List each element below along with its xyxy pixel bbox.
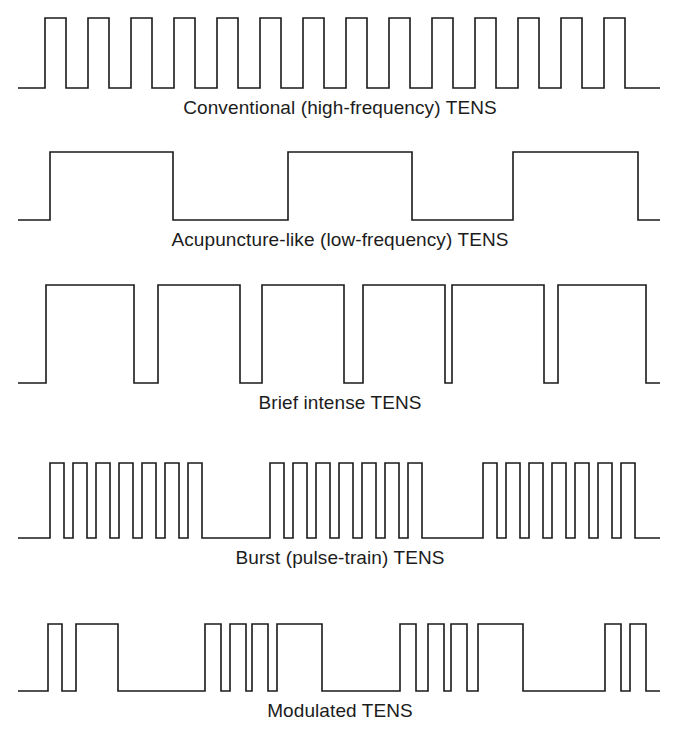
waveform-plot-burst <box>0 428 680 558</box>
waveform-caption-conventional: Conventional (high-frequency) TENS <box>0 97 680 119</box>
waveform-plot-conventional <box>0 0 680 110</box>
waveform-block-burst: Burst (pulse-train) TENS <box>0 428 680 558</box>
waveform-caption-brief-intense: Brief intense TENS <box>0 392 680 414</box>
waveform-block-modulated: Modulated TENS <box>0 581 680 703</box>
waveform-caption-modulated: Modulated TENS <box>0 700 680 722</box>
waveform-caption-burst: Burst (pulse-train) TENS <box>0 547 680 569</box>
waveform-plot-acupuncture-like <box>0 132 680 240</box>
waveform-plot-brief-intense <box>0 265 680 403</box>
waveform-trace-burst <box>18 463 660 538</box>
waveform-trace-brief-intense <box>18 285 660 383</box>
waveform-trace-conventional <box>18 18 660 88</box>
waveform-trace-acupuncture-like <box>18 152 660 220</box>
waveform-block-conventional: Conventional (high-frequency) TENS <box>0 0 680 110</box>
tens-waveform-figure: Conventional (high-frequency) TENS Acupu… <box>0 0 680 741</box>
waveform-block-acupuncture-like: Acupuncture-like (low-frequency) TENS <box>0 132 680 240</box>
waveform-caption-acupuncture-like: Acupuncture-like (low-frequency) TENS <box>0 229 680 251</box>
waveform-plot-modulated <box>0 581 680 703</box>
waveform-block-brief-intense: Brief intense TENS <box>0 265 680 403</box>
waveform-trace-modulated <box>18 624 660 691</box>
